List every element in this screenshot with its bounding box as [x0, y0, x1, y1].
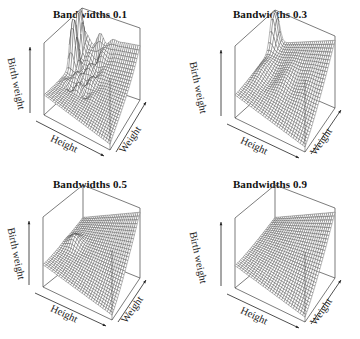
panel-bandwidth-0-1: Bandwidths 0.1 Birth weight Height Weigh… [0, 0, 180, 170]
surface-plot [180, 0, 360, 170]
surface-plot [180, 170, 360, 339]
panel-bandwidth-0-9: Bandwidths 0.9 Birth weight Height Weigh… [180, 170, 360, 339]
surface-plot [0, 170, 180, 339]
surface-plot [0, 0, 180, 170]
panel-bandwidth-0-3: Bandwidths 0.3 Birth weight Height Weigh… [180, 0, 360, 170]
panel-bandwidth-0-5: Bandwidths 0.5 Birth weight Height Weigh… [0, 170, 180, 339]
